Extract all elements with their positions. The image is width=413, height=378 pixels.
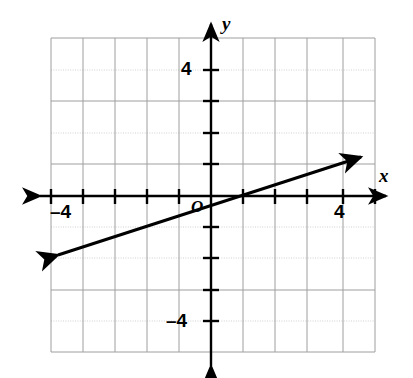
- y-axis-tick-label-negative-4: –4: [166, 311, 187, 330]
- plotted-line: [58, 157, 361, 255]
- graph-canvas: [0, 0, 413, 378]
- axes: [40, 24, 386, 366]
- y-axis-tick-label-4: 4: [181, 59, 192, 78]
- x-axis-tick-label-negative-4: –4: [50, 202, 71, 221]
- coordinate-plane-figure: y x 4 –4 –4 4 O: [0, 0, 413, 378]
- x-axis-tick-label-4: 4: [334, 202, 345, 221]
- y-axis-label: y: [222, 14, 230, 33]
- origin-label: O: [191, 198, 203, 215]
- x-axis-label: x: [379, 166, 389, 185]
